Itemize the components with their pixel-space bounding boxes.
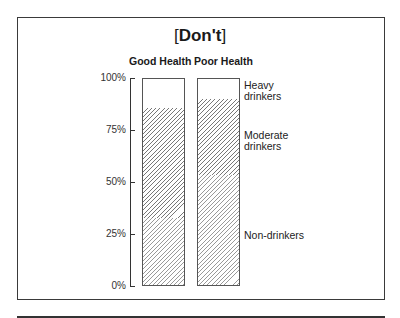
label-moderate-drinkers: Moderate drinkers	[244, 130, 288, 152]
y-tick-label-0: 0%	[86, 280, 126, 291]
label-heavy-drinkers: Heavy drinkers	[244, 80, 281, 102]
y-tick-label-100: 100%	[86, 72, 126, 83]
bar-good-health	[142, 78, 185, 286]
chart-title: [Don't]	[0, 26, 400, 46]
y-tick-0	[130, 286, 135, 287]
segment-heavy-drinkers	[143, 79, 184, 108]
label-moderate-line2: drinkers	[244, 141, 288, 152]
segment-moderate-drinkers	[198, 99, 239, 175]
y-tick-label-50: 50%	[86, 176, 126, 187]
label-non-drinkers: Non-drinkers	[244, 230, 304, 241]
title-text: Don't	[179, 26, 222, 45]
column-header-poor-health: Poor Health	[194, 55, 253, 67]
segment-non-drinkers	[143, 218, 184, 286]
segment-non-drinkers	[198, 175, 239, 286]
column-header-good-health: Good Health	[129, 55, 191, 67]
bar-poor-health	[197, 78, 240, 286]
y-tick-50	[130, 182, 135, 183]
y-tick-label-75: 75%	[86, 124, 126, 135]
y-tick-75	[130, 130, 135, 131]
y-tick-100	[130, 78, 135, 79]
segment-heavy-drinkers	[198, 79, 239, 99]
title-bracket-close: ]	[221, 26, 226, 45]
label-heavy-line2: drinkers	[244, 91, 281, 102]
y-tick-25	[130, 234, 135, 235]
segment-moderate-drinkers	[143, 108, 184, 218]
y-tick-label-25: 25%	[86, 228, 126, 239]
